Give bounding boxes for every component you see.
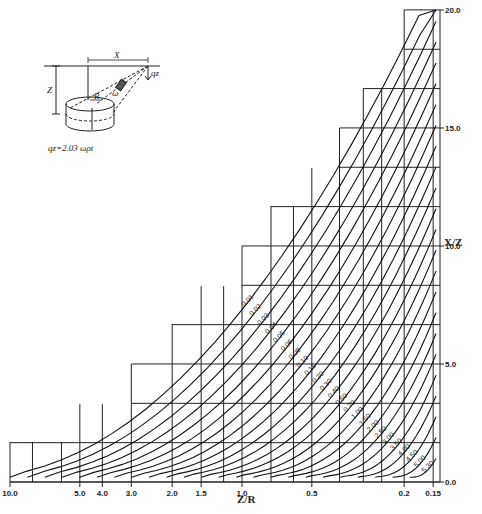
x-tick-label: 1.5 bbox=[196, 489, 208, 498]
x-tick-label: 0.2 bbox=[399, 489, 411, 498]
x-axis-ticks: 10.05.04.03.02.01.51.00.50.20.15 bbox=[2, 482, 441, 498]
staircase-grid bbox=[10, 10, 440, 482]
curves bbox=[10, 10, 436, 477]
x-axis-title: Z/R bbox=[237, 493, 256, 505]
y-tick-label: 0.0 bbox=[445, 478, 457, 487]
x-tick-label: 2.0 bbox=[167, 489, 179, 498]
x-tick-label: 0.5 bbox=[306, 489, 318, 498]
inset-omega-label: ω bbox=[112, 88, 118, 98]
inset-diagram bbox=[44, 57, 160, 131]
x-tick-label: 5.0 bbox=[74, 489, 86, 498]
inset-z-label: Z bbox=[47, 85, 53, 95]
y-tick-label: 15.0 bbox=[445, 124, 461, 133]
inset-x-label: X bbox=[113, 50, 120, 60]
x-tick-label: 0.15 bbox=[425, 489, 441, 498]
inset-formula: qz=2.03 ωρt bbox=[48, 143, 94, 153]
y-tick-label: 20.0 bbox=[445, 6, 461, 15]
x-tick-label: 10.0 bbox=[2, 489, 18, 498]
x-tick-label: 4.0 bbox=[97, 489, 109, 498]
curve-label: 0.02 bbox=[248, 302, 263, 317]
influence-chart: 0.010.020.030.040.050.060.080.100.150.20… bbox=[0, 0, 482, 514]
curve-labels: 0.010.020.030.040.050.060.080.100.150.20… bbox=[240, 293, 435, 474]
y-tick-label: 5.0 bbox=[445, 360, 457, 369]
x-tick-label: 3.0 bbox=[126, 489, 138, 498]
inset-r-label: R bbox=[93, 91, 100, 101]
curve-label: 0.03 bbox=[256, 311, 271, 326]
inset-qz-label: qz bbox=[151, 68, 160, 78]
y-axis-title: X/Z bbox=[444, 236, 462, 248]
